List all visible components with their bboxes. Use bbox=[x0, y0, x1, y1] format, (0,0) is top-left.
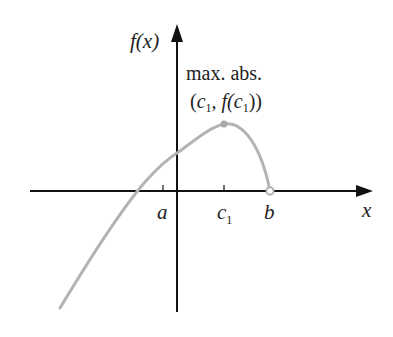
tick-label-c1: c1 bbox=[217, 200, 232, 227]
annotation-point: (c1, f(c1)) bbox=[190, 90, 262, 115]
extreme-value-diagram: f(x) max. abs. (c1, f(c1)) a c1 b x bbox=[0, 0, 393, 337]
x-axis-label: x bbox=[361, 198, 372, 222]
x-axis-arrow-icon bbox=[356, 185, 373, 197]
max-point-marker bbox=[221, 121, 228, 128]
annotation-max-abs: max. abs. bbox=[186, 62, 262, 84]
tick-label-b: b bbox=[264, 200, 275, 224]
y-axis-arrow-icon bbox=[171, 24, 183, 42]
tick-label-a: a bbox=[157, 200, 168, 224]
y-axis-label: f(x) bbox=[130, 29, 159, 53]
open-endpoint-b bbox=[266, 187, 273, 194]
